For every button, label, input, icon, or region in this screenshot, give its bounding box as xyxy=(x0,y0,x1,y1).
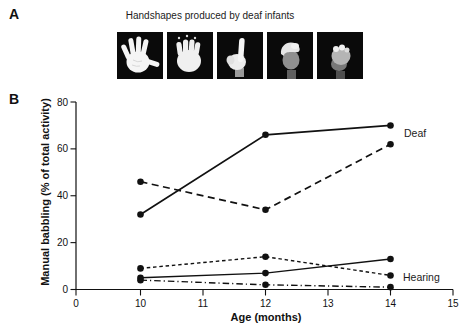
y-tick-label: 20 xyxy=(57,237,69,248)
data-point-marker xyxy=(262,282,269,289)
x-tick-label: 10 xyxy=(135,298,147,309)
data-point-marker xyxy=(137,178,144,185)
data-point-marker xyxy=(262,132,269,139)
series-deaf-dashed xyxy=(137,141,394,213)
data-point-marker xyxy=(262,253,269,260)
data-point-marker xyxy=(387,272,394,279)
y-axis-ticks: 020406080 xyxy=(57,97,76,296)
y-tick-label: 80 xyxy=(57,97,69,108)
data-point-marker xyxy=(387,141,394,148)
figure: A Handshapes produced by deaf infants xyxy=(0,0,464,333)
manual-babbling-line-chart: 0204060800101112131415 xyxy=(0,0,464,333)
series-deaf-solid xyxy=(137,122,394,218)
x-tick-label: 13 xyxy=(322,298,334,309)
x-axis-label: Age (months) xyxy=(196,311,336,323)
x-axis-ticks: 0101112131415 xyxy=(73,290,459,310)
y-tick-label: 40 xyxy=(57,190,69,201)
x-tick-label: 11 xyxy=(198,298,209,309)
axes xyxy=(76,102,453,290)
series-hearing-dash-dot xyxy=(137,277,394,291)
data-point-marker xyxy=(387,122,394,129)
data-point-marker xyxy=(262,207,269,214)
data-point-marker xyxy=(137,265,144,272)
data-point-marker xyxy=(137,211,144,218)
data-point-marker xyxy=(262,270,269,277)
x-tick-label: 0 xyxy=(73,298,79,309)
data-point-marker xyxy=(137,277,144,284)
data-point-marker xyxy=(387,284,394,291)
x-tick-label: 12 xyxy=(260,298,272,309)
deaf-series-label: Deaf xyxy=(404,127,426,139)
y-tick-label: 60 xyxy=(57,143,69,154)
x-tick-label: 15 xyxy=(447,298,459,309)
hearing-series-label: Hearing xyxy=(403,271,440,283)
x-tick-label: 14 xyxy=(385,298,397,309)
y-axis-label: Manual babbling (% of total activity) xyxy=(39,92,51,292)
data-point-marker xyxy=(387,256,394,263)
y-tick-label: 0 xyxy=(62,284,68,295)
